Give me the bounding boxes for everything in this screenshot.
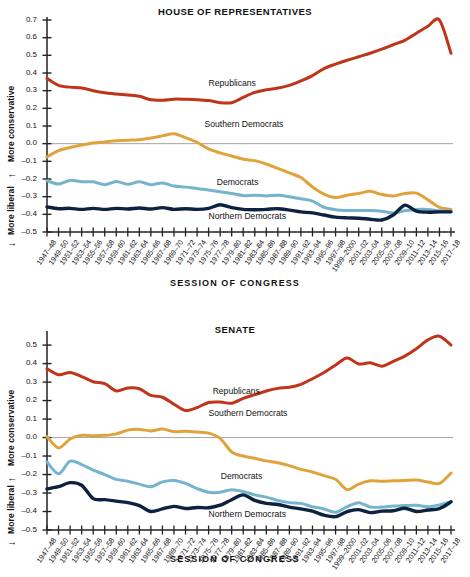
y-tick-label: –0.5 xyxy=(1,227,37,236)
y-tick-label: 0.2 xyxy=(1,103,37,112)
y-tick-label: –0.2 xyxy=(1,469,37,478)
y-tick-label: 0.0 xyxy=(1,432,37,441)
series-line-southern-democrats xyxy=(47,134,451,210)
series-line-republicans xyxy=(47,19,451,103)
series-label-southern-democrats: Southern Democrats xyxy=(209,408,288,418)
y-tick-label: –0.3 xyxy=(1,191,37,200)
y-tick-label: 0.4 xyxy=(1,68,37,77)
y-tick-label: –0.3 xyxy=(1,488,37,497)
y-tick-label: –0.2 xyxy=(1,174,37,183)
senate-plot-area xyxy=(0,318,470,558)
y-tick-label: –0.1 xyxy=(1,451,37,460)
series-label-republicans: Republicans xyxy=(213,386,260,396)
senate-chart-panel: SENATE More conservative More liberal ↑ … xyxy=(0,296,470,577)
y-tick-label: 0.7 xyxy=(1,15,37,24)
y-tick-label: 0.5 xyxy=(1,340,37,349)
series-label-northern-democrats: Northern Democrats xyxy=(209,509,286,519)
y-tick-label: 0.2 xyxy=(1,395,37,404)
series-label-democrats: Democrats xyxy=(221,471,263,481)
y-tick-label: 0.4 xyxy=(1,358,37,367)
y-tick-label: 0.3 xyxy=(1,85,37,94)
house-xaxis-title: SESSION OF CONGRESS xyxy=(0,278,470,288)
series-label-republicans: Republicans xyxy=(209,78,256,88)
series-line-republicans xyxy=(47,336,451,411)
series-label-democrats: Democrats xyxy=(217,177,259,187)
y-tick-label: –0.4 xyxy=(1,209,37,218)
y-tick-label: 0.5 xyxy=(1,50,37,59)
y-tick-label: 0.0 xyxy=(1,138,37,147)
y-tick-label: –0.4 xyxy=(1,506,37,515)
y-tick-label: –0.1 xyxy=(1,156,37,165)
y-tick-label: 0.1 xyxy=(1,414,37,423)
series-label-southern-democrats: Southern Democrats xyxy=(205,119,284,129)
y-tick-label: –0.5 xyxy=(1,525,37,534)
series-label-northern-democrats: Northern Democrats xyxy=(209,211,286,221)
y-tick-label: 0.3 xyxy=(1,377,37,386)
series-line-democrats xyxy=(47,461,451,512)
y-tick-label: 0.6 xyxy=(1,32,37,41)
senate-plot-svg xyxy=(0,318,470,558)
house-chart-panel: HOUSE OF REPRESENTATIVES More conservati… xyxy=(0,0,470,296)
y-tick-label: 0.1 xyxy=(1,121,37,130)
